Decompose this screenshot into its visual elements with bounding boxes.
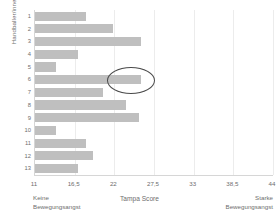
bar-row: 12 (35, 150, 273, 163)
bar (35, 164, 78, 173)
bar-row: 1 (35, 10, 273, 23)
plot-area: 12345678910111213 (34, 10, 273, 176)
y-axis-tick-label: 6 (19, 73, 31, 85)
bar (35, 24, 113, 33)
x-axis-tick-label: 16,5 (68, 179, 80, 188)
x-axis-tick-labels: 1116,52227,53338,544 (34, 179, 272, 189)
tampa-score-bar-chart: Handballer/innen 12345678910111213 1116,… (0, 0, 279, 224)
bar-row: 5 (35, 61, 273, 74)
bar (35, 100, 126, 109)
y-axis-tick-label: 9 (19, 112, 31, 124)
bar (35, 75, 141, 84)
bar (35, 113, 139, 122)
y-axis-tick-label: 4 (19, 48, 31, 60)
x-axis-tick-label: 22 (110, 179, 117, 188)
y-axis-tick-label: 2 (19, 23, 31, 35)
x-axis-tick-label: 33 (189, 179, 196, 188)
y-axis-tick-label: 7 (19, 86, 31, 98)
anchor-label-right: Starke Bewegungsangst (226, 194, 273, 211)
y-axis-tick-label: 3 (19, 35, 31, 47)
bar-row: 10 (35, 124, 273, 137)
bar-row: 7 (35, 86, 273, 99)
x-axis-tick-label: 27,5 (147, 179, 159, 188)
bar-row: 4 (35, 48, 273, 61)
bar (35, 88, 103, 97)
bar-row: 13 (35, 162, 273, 175)
bar-row: 3 (35, 35, 273, 48)
bar-row: 2 (35, 23, 273, 36)
bar (35, 12, 86, 21)
anchor-label-left: Keine Bewegungsangst (33, 194, 80, 211)
y-axis-tick-label: 5 (19, 61, 31, 73)
bar (35, 126, 56, 135)
y-axis-tick-label: 12 (19, 150, 31, 162)
bar (35, 50, 78, 59)
bar (35, 37, 141, 46)
y-axis-tick-label: 10 (19, 124, 31, 136)
bar-row: 6 (35, 73, 273, 86)
x-axis-tick-label: 44 (269, 179, 276, 188)
bar (35, 62, 56, 71)
gridline (273, 10, 274, 175)
bar (35, 139, 86, 148)
bar-row: 9 (35, 112, 273, 125)
bar (35, 151, 93, 160)
x-axis-tick-label: 11 (31, 179, 37, 188)
bar-row: 8 (35, 99, 273, 112)
y-axis-tick-label: 1 (19, 10, 31, 22)
x-axis-tick-label: 38,5 (226, 179, 238, 188)
bar-row: 11 (35, 137, 273, 150)
y-axis-tick-label: 11 (19, 137, 31, 149)
y-axis-tick-label: 8 (19, 99, 31, 111)
y-axis-tick-label: 13 (19, 162, 31, 174)
